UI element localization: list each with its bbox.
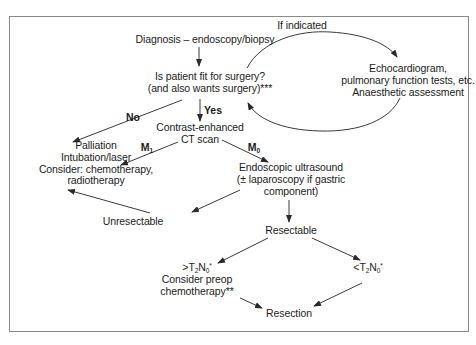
node-resection: Resection xyxy=(266,308,312,320)
node-eus: Endoscopic ultrasound (± laparoscopy if … xyxy=(237,162,345,197)
edge-label-m0: M0 xyxy=(248,141,260,153)
node-ct-scan-line: CT scan xyxy=(156,134,244,146)
edge-label-no: No xyxy=(126,111,140,123)
node-ct-scan: Contrast-enhanced CT scan xyxy=(156,122,244,146)
edge-workup-to-fitness xyxy=(248,98,400,131)
node-gt-t2n0-line: Consider preop xyxy=(160,274,233,286)
node-workup: Echocardiogram, pulmonary function tests… xyxy=(341,63,475,98)
stage-label: <T2N0* xyxy=(353,262,382,274)
edge-label-yes: Yes xyxy=(204,104,222,116)
node-diagnosis: Diagnosis – endoscopy/biopsy xyxy=(135,34,274,46)
node-resectable: Resectable xyxy=(265,225,317,237)
node-eus-line: (± laparoscopy if gastric xyxy=(237,174,345,186)
node-eus-line: component) xyxy=(237,186,345,198)
node-fitness: Is patient fit for surgery? (and also wa… xyxy=(148,71,273,95)
node-gt-t2n0-line: chemotherapy** xyxy=(160,286,233,298)
node-gt-t2n0: >T2N0* Consider preop chemotherapy** xyxy=(160,262,233,297)
edge-label-if-indicated: If indicated xyxy=(277,20,327,32)
node-palliation: Palliation Intubation/laser Consider: ch… xyxy=(39,140,153,187)
edge-resectable-to-gt xyxy=(218,238,268,263)
edge-gt-to-resection xyxy=(240,298,262,308)
node-unresectable: Unresectable xyxy=(103,216,164,228)
node-fitness-line: (and also wants surgery)*** xyxy=(148,83,273,95)
node-palliation-line: radiotherapy xyxy=(39,175,153,187)
node-palliation-line: Intubation/laser xyxy=(39,152,153,164)
edge-eus-to-unresectable xyxy=(192,190,240,212)
edge-resectable-to-lt xyxy=(312,238,360,260)
node-workup-line: Anaesthetic assessment xyxy=(341,87,475,99)
edge-unresectable-to-palliation xyxy=(68,190,150,213)
node-workup-line: pulmonary function tests, etc. xyxy=(341,75,475,87)
node-lt-t2n0: <T2N0* xyxy=(353,262,382,274)
edge-lt-to-resection xyxy=(314,283,362,306)
